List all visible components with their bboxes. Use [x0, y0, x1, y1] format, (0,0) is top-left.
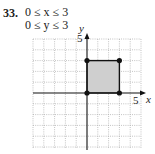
y-axis-label: y: [79, 22, 84, 34]
x-tick-label: 5: [133, 94, 139, 106]
shaded-region: [87, 61, 119, 93]
x-axis-label: x: [146, 93, 151, 105]
y-axis-arrow-icon: [85, 33, 90, 39]
coordinate-graph: [0, 0, 155, 154]
